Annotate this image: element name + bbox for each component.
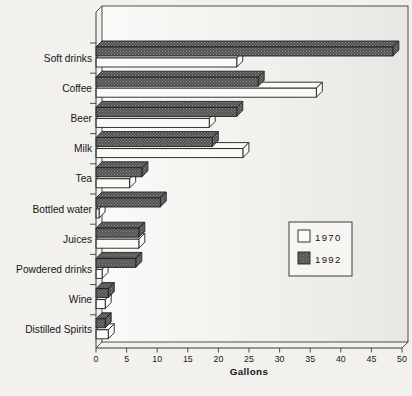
legend-label-1970: 1970 — [315, 232, 342, 243]
category-label-bottled-water: Bottled water — [33, 204, 93, 215]
bar-top-face — [96, 101, 243, 107]
bar-1992-milk — [96, 132, 218, 147]
category-label-distilled-spirits: Distilled Spirits — [25, 324, 92, 335]
bar-front-face — [96, 58, 237, 67]
x-tick-label: 30 — [275, 354, 285, 364]
bar-front-face — [96, 107, 237, 116]
bar-front-face — [96, 88, 316, 97]
bar-front-face — [96, 138, 212, 147]
category-label-beer: Beer — [70, 113, 92, 124]
x-tick-label: 10 — [152, 354, 162, 364]
x-tick-label: 0 — [94, 354, 99, 364]
bar-front-face — [96, 168, 142, 177]
legend-swatch-1970 — [298, 230, 310, 242]
category-label-soft-drinks: Soft drinks — [44, 53, 92, 64]
bar-1992-tea — [96, 162, 148, 177]
x-tick-label: 50 — [397, 354, 407, 364]
bar-front-face — [96, 149, 243, 158]
bar-top-face — [96, 162, 148, 168]
bar-1992-juices — [96, 222, 145, 237]
chart-svg: 05101520253035404550Soft drinksCoffeeBee… — [0, 0, 412, 396]
bar-1992-beer — [96, 101, 243, 116]
bar-front-face — [96, 289, 108, 298]
bar-front-face — [96, 228, 139, 237]
x-tick-label: 45 — [367, 354, 377, 364]
legend-swatch-1992 — [298, 252, 310, 264]
category-label-milk: Milk — [74, 143, 93, 154]
bar-front-face — [96, 300, 105, 309]
x-tick-label: 35 — [305, 354, 315, 364]
bar-top-face — [96, 41, 399, 47]
bar-front-face — [96, 269, 102, 278]
bar-1992-coffee — [96, 71, 264, 86]
legend-label-1992: 1992 — [315, 254, 342, 265]
bar-1992-bottled-water — [96, 192, 166, 207]
bar-front-face — [96, 179, 130, 188]
corner-bottom-left — [96, 342, 102, 348]
legend: 19701992 — [289, 222, 352, 276]
x-tick-label: 40 — [336, 354, 346, 364]
x-tick-label: 20 — [214, 354, 224, 364]
bar-top-face — [96, 71, 264, 77]
bar-front-face — [96, 198, 160, 207]
scanned-bar-chart-page: 05101520253035404550Soft drinksCoffeeBee… — [0, 0, 412, 396]
x-tick-label: 15 — [183, 354, 193, 364]
bar-front-face — [96, 118, 209, 127]
bar-front-face — [96, 47, 393, 56]
corner-bottom-right — [402, 342, 408, 348]
category-label-juices: Juices — [63, 234, 92, 245]
x-axis-title: Gallons — [230, 366, 269, 377]
bar-group-juices — [96, 222, 145, 248]
bar-group-distilled-spirits — [96, 313, 114, 339]
x-tick-label: 25 — [244, 354, 254, 364]
bar-top-face — [96, 192, 166, 198]
bar-top-face — [96, 252, 142, 258]
chart-root: 05101520253035404550Soft drinksCoffeeBee… — [16, 6, 408, 364]
bar-front-face — [96, 319, 105, 328]
category-label-wine: Wine — [69, 294, 93, 305]
bar-top-face — [96, 222, 145, 228]
category-label-tea: Tea — [76, 173, 93, 184]
bar-front-face — [96, 258, 136, 267]
bar-top-face — [96, 132, 218, 138]
bar-front-face — [96, 239, 139, 248]
bar-front-face — [96, 330, 108, 339]
bar-1992-powdered-drinks — [96, 252, 142, 267]
category-label-coffee: Coffee — [62, 83, 92, 94]
bar-front-face — [96, 77, 258, 86]
corner-top-left — [96, 6, 102, 12]
category-label-powdered-drinks: Powdered drinks — [16, 264, 92, 275]
bar-1992-soft-drinks — [96, 41, 399, 56]
x-tick-label: 5 — [124, 354, 129, 364]
